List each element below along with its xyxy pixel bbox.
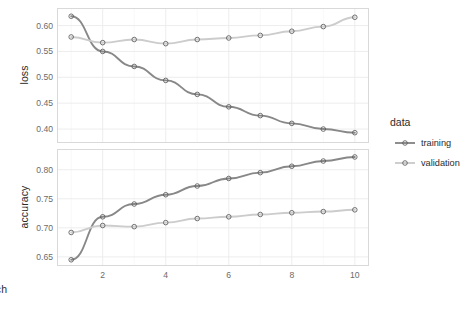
x-tick-label: 10 xyxy=(340,270,370,280)
y-tick-label: 0.70 xyxy=(23,223,53,233)
y-tick-label: 0.80 xyxy=(23,165,53,175)
legend-title: data xyxy=(390,116,410,128)
x-tick-label: 4 xyxy=(151,270,181,280)
series-line-training xyxy=(71,16,355,132)
chart-root: loss accuracy epoch 0.400.450.500.550.60… xyxy=(0,0,470,310)
y-axis-title-accuracy: accuracy xyxy=(18,162,30,252)
legend-label: validation xyxy=(421,158,460,168)
x-tick-label: 2 xyxy=(88,270,118,280)
x-tick-label: 8 xyxy=(277,270,307,280)
y-tick-label: 0.75 xyxy=(23,194,53,204)
legend-item-training[interactable]: training xyxy=(394,136,451,150)
series-line-validation xyxy=(71,17,355,43)
panel-accuracy xyxy=(57,149,369,266)
panel-loss xyxy=(57,8,369,143)
y-tick-label: 0.65 xyxy=(23,252,53,262)
legend-key-training xyxy=(394,136,416,150)
y-tick-label: 0.60 xyxy=(23,21,53,31)
y-tick-label: 0.45 xyxy=(23,98,53,108)
legend-label: training xyxy=(421,138,451,148)
plot-area-loss xyxy=(58,9,368,142)
y-tick-label: 0.50 xyxy=(23,72,53,82)
series-line-training xyxy=(71,157,355,260)
x-tick-label: 6 xyxy=(214,270,244,280)
plot-area-accuracy xyxy=(58,150,368,265)
y-tick-label: 0.40 xyxy=(23,124,53,134)
legend-item-validation[interactable]: validation xyxy=(394,156,460,170)
y-tick-label: 0.55 xyxy=(23,46,53,56)
legend-key-validation xyxy=(394,156,416,170)
